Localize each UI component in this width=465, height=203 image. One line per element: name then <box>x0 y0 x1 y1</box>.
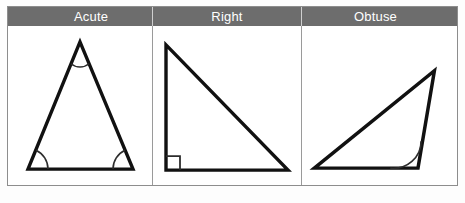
cell-right-triangle <box>153 26 302 185</box>
table-header-row: Acute Right Obtuse <box>8 7 457 26</box>
obtuse-angle-arc <box>390 141 421 168</box>
acute-triangle-drawing <box>8 26 152 185</box>
acute-angle-arc-apex <box>71 64 89 67</box>
acute-angle-arc-left <box>36 150 48 169</box>
header-cell-acute: Acute <box>8 7 153 26</box>
triangle-classification-figure: Acute Right Obtuse <box>0 0 465 203</box>
right-angle-square-marker <box>166 156 180 170</box>
triangle-table: Acute Right Obtuse <box>7 6 458 186</box>
obtuse-triangle-drawing <box>302 26 457 185</box>
table-body-row <box>8 26 457 185</box>
header-cell-right: Right <box>153 7 302 26</box>
right-triangle-outline <box>166 45 288 170</box>
acute-triangle-outline <box>28 42 133 169</box>
cell-obtuse-triangle <box>302 26 457 185</box>
acute-angle-arc-right <box>113 150 125 169</box>
right-triangle-drawing <box>153 26 301 185</box>
header-cell-obtuse: Obtuse <box>302 7 457 26</box>
cell-acute-triangle <box>8 26 153 185</box>
obtuse-triangle-outline <box>314 71 434 168</box>
